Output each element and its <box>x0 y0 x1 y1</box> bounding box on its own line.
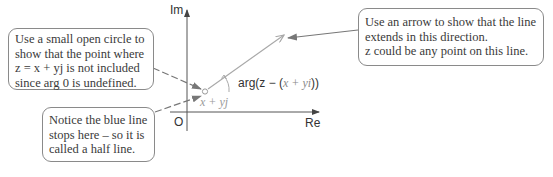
callout-open-circle: Use a small open circle to show that the… <box>8 28 154 90</box>
angle-label-prefix: arg( <box>238 76 259 90</box>
half-line-pointer <box>155 96 201 112</box>
callout-half-line: Notice the blue line stops here – so it … <box>42 107 155 162</box>
point-label: x + yj <box>200 95 228 110</box>
callout-line: z = x + yj is not included <box>15 61 147 76</box>
callout-line: stops here – so it is <box>49 128 148 143</box>
direction-pointer <box>288 30 358 38</box>
callout-line: Use a small open circle to <box>15 32 147 47</box>
real-axis-label: Re <box>305 116 320 130</box>
callout-line: since arg 0 is undefined. <box>15 76 147 91</box>
callout-line: show that the point where <box>15 47 147 62</box>
angle-label-middle: − ( <box>265 76 283 90</box>
angle-label-suffix: )) <box>311 76 319 90</box>
callout-line: extends in this direction. <box>365 30 537 45</box>
callout-line: z could be any point on this line. <box>365 44 537 59</box>
callout-direction: Use an arrow to show that the line exten… <box>358 8 544 66</box>
origin-label: O <box>174 115 183 129</box>
callout-line: Notice the blue line <box>49 113 148 128</box>
open-circle-pointer <box>153 68 201 89</box>
callout-line: called a half line. <box>49 142 148 157</box>
argand-diagram: Im Re O x + yj arg(z − (x + yi)) Use a s… <box>0 0 553 177</box>
callout-line: Use an arrow to show that the line <box>365 15 537 30</box>
angle-label-inner: x + yi <box>283 76 311 90</box>
angle-arc <box>222 75 230 92</box>
open-circle-point <box>202 89 207 94</box>
angle-label: arg(z − (x + yi)) <box>238 76 319 91</box>
imaginary-axis-label: Im <box>170 3 183 17</box>
